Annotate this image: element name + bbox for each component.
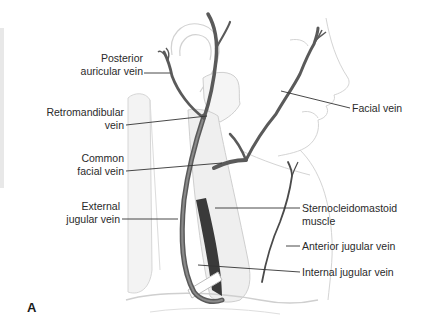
anterior-jugular-vein-path [262, 162, 292, 282]
label-line: auricular vein [80, 65, 143, 78]
label-line: Anterior jugular vein [302, 240, 395, 253]
face-profile-outline [240, 18, 349, 300]
label-sternocleidomastoid-muscle: Sternocleidomastoid muscle [302, 202, 397, 227]
label-posterior-auricular-vein: Posterior auricular vein [80, 52, 143, 77]
label-line: Sternocleidomastoid [302, 202, 397, 215]
label-anterior-jugular-vein: Anterior jugular vein [302, 240, 395, 253]
panel-letter: A [27, 300, 36, 315]
label-external-jugular-vein: External jugular vein [50, 200, 120, 225]
label-line: muscle [302, 215, 397, 228]
label-retromandibular-vein: Retromandibular vein [30, 106, 124, 131]
label-line: Internal jugular vein [302, 266, 394, 279]
label-facial-vein: Facial vein [352, 102, 402, 115]
neck-veins-figure: Posterior auricular vein Retromandibular… [0, 0, 422, 331]
label-line: Facial vein [352, 102, 402, 115]
label-line: Posterior [80, 52, 143, 65]
left-edge-strip [0, 28, 4, 188]
label-line: External [50, 200, 120, 213]
label-internal-jugular-vein: Internal jugular vein [302, 266, 394, 279]
label-line: Common [50, 152, 124, 165]
label-line: jugular vein [50, 213, 120, 226]
label-line: vein [30, 119, 124, 132]
label-line: Retromandibular [30, 106, 124, 119]
label-common-facial-vein: Common facial vein [50, 152, 124, 177]
label-line: facial vein [50, 165, 124, 178]
